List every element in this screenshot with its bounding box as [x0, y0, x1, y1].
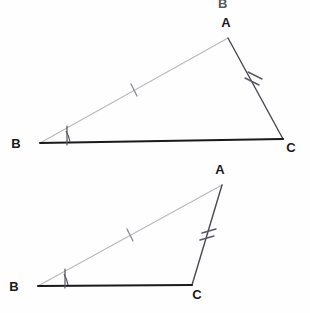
triangle-top-label-b: B	[11, 136, 20, 151]
triangle-bottom-side-ac	[192, 185, 222, 285]
bleed-through-glyph-b: B	[218, 0, 227, 11]
triangle-top-label-a: A	[221, 15, 231, 30]
triangle-top: A B C	[11, 15, 296, 155]
triangle-top-tick-ac-1	[245, 78, 259, 85]
triangle-bottom-label-c: C	[192, 287, 202, 302]
triangle-bottom-side-bc	[38, 285, 192, 286]
triangle-top-side-ac	[228, 38, 283, 139]
triangle-bottom: A B C	[9, 162, 225, 302]
geometry-figure: B A B C	[0, 0, 310, 313]
triangles-canvas: B A B C	[0, 0, 310, 313]
triangle-top-label-c: C	[286, 140, 296, 155]
triangle-top-side-bc	[40, 139, 283, 143]
triangle-bottom-label-a: A	[215, 162, 225, 177]
triangle-bottom-label-b: B	[9, 279, 18, 294]
bleed-through-layer: B	[218, 0, 227, 11]
